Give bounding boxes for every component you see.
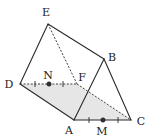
point-m	[101, 118, 105, 122]
label-n: N	[43, 69, 53, 82]
label-e: E	[42, 6, 50, 19]
shaded-plane-dfca	[20, 84, 131, 120]
label-b: B	[108, 51, 116, 64]
prism-diagram: EBDFACNM	[0, 0, 154, 140]
label-a: A	[64, 124, 74, 137]
label-f: F	[78, 71, 86, 84]
label-c: C	[137, 115, 145, 128]
point-n	[47, 82, 51, 86]
label-d: D	[5, 78, 14, 91]
label-m: M	[96, 125, 107, 138]
